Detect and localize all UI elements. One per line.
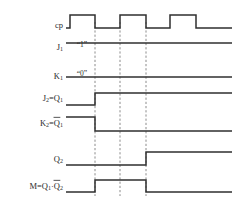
waveforms-group [66, 15, 232, 192]
signal-label-k1: K1 [54, 71, 63, 81]
level-annotation-j1: “1” [77, 40, 87, 49]
waveform-cp [66, 15, 232, 28]
timing-diagram-canvas: cpJ1K1J2=Q1K2=Q1Q2M=Q1·Q2 “1”“0” [0, 0, 239, 207]
level-annotation-k1: “0” [77, 69, 87, 78]
signal-label-cp: cp [55, 20, 63, 30]
level-annotations-group: “1”“0” [77, 40, 87, 78]
timing-diagram: cpJ1K1J2=Q1K2=Q1Q2M=Q1·Q2 “1”“0” [0, 0, 239, 207]
marker-lines-group [95, 22, 146, 196]
signal-label-j1: J1 [57, 42, 63, 52]
waveform-k2 [66, 117, 232, 131]
signal-labels-group: cpJ1K1J2=Q1K2=Q1Q2M=Q1·Q2 [30, 20, 63, 191]
signal-label-q2: Q2 [54, 154, 63, 164]
signal-label-j2: J2=Q1 [43, 93, 63, 103]
waveform-m [66, 180, 232, 192]
waveform-q2 [66, 152, 232, 165]
signal-label-k2: K2=Q1 [40, 118, 63, 128]
waveform-j2 [66, 93, 232, 105]
signal-label-m: M=Q1·Q2 [30, 181, 63, 191]
